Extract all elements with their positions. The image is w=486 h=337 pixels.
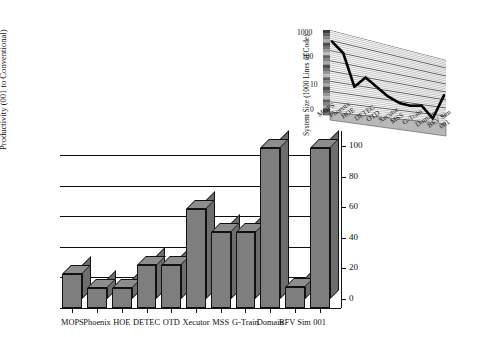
inset-wall-band (323, 39, 330, 42)
bar-front-face (137, 265, 157, 308)
inset-wall-band (323, 96, 330, 99)
bar-mops (62, 140, 82, 308)
inset-wall-band (323, 68, 330, 71)
bar-front-face (310, 148, 330, 308)
bar-front-face (186, 209, 206, 308)
x-tick-mark (221, 308, 222, 313)
inset-wall-band (323, 84, 330, 87)
bar-mss (211, 140, 231, 308)
inset-wall-band (323, 33, 330, 36)
inset-wall-band (323, 77, 330, 80)
inset-wall-band (323, 74, 330, 77)
bar-front-face (236, 232, 256, 308)
bar-detec (137, 140, 157, 308)
bar-bfv-sim (285, 140, 305, 308)
bar-domain (260, 140, 280, 308)
x-tick-mark (320, 308, 321, 313)
bar-front-face (62, 274, 82, 308)
bar-hoe (112, 140, 132, 308)
inset-y-tick-label: 1000 (297, 28, 312, 37)
bar-001 (310, 140, 330, 308)
bar-front-face (161, 265, 181, 308)
inset-y-tick-label: 100 (302, 52, 313, 61)
bar-xecutor (186, 140, 206, 308)
bar-front-face (87, 288, 107, 308)
y-tick-label: 40 (349, 233, 358, 242)
x-tick-mark (122, 308, 123, 313)
inset-gridline (330, 67, 446, 89)
inset-wall-band (323, 65, 330, 68)
inset-line-chart: System Size (1000 Lines of Code) 1000100… (296, 8, 486, 158)
x-tick-label: 001 (294, 318, 346, 327)
bar-front-face (211, 232, 231, 308)
inset-wall-band (323, 58, 330, 61)
inset-wall-band (323, 62, 330, 65)
x-tick-mark (97, 308, 98, 313)
x-tick-mark (72, 308, 73, 313)
x-tick-mark (196, 308, 197, 313)
x-tick-mark (295, 308, 296, 313)
x-tick-mark (270, 308, 271, 313)
inset-gridline (330, 32, 446, 62)
main-y-axis-title: Productivity (001 to Conventional) (0, 29, 8, 150)
inset-wall-band (323, 30, 330, 33)
bar-g-train (236, 140, 256, 308)
x-axis-line (60, 308, 341, 309)
main-plot-area: 020406080100MOPSPhoenixHOEDETECOTDXecuto… (60, 140, 332, 308)
inset-gridline (330, 34, 446, 63)
y-tick-label: 80 (349, 172, 358, 181)
bar-front-face (260, 148, 280, 308)
inset-wall-band (323, 43, 330, 46)
inset-gridline (330, 30, 446, 60)
inset-svg-canvas (296, 8, 486, 158)
x-tick-mark (245, 308, 246, 313)
y-tick-label: 20 (349, 263, 358, 272)
inset-y-tick-label: 10 (310, 80, 318, 89)
x-tick-mark (147, 308, 148, 313)
inset-wall-band (323, 90, 330, 93)
inset-gridline (330, 83, 446, 101)
bar-front-face (112, 288, 132, 308)
bar-phoenix (87, 140, 107, 308)
inset-wall-band (323, 71, 330, 74)
inset-wall-band (323, 93, 330, 96)
bar-front-face (285, 287, 305, 308)
inset-wall-band (323, 52, 330, 55)
bar-otd (161, 140, 181, 308)
y-tick-label: 60 (349, 202, 358, 211)
inset-wall-band (323, 55, 330, 58)
inset-wall-band (323, 49, 330, 52)
x-tick-mark (171, 308, 172, 313)
inset-wall-band (323, 80, 330, 83)
inset-wall-band (323, 87, 330, 90)
y-tick-label: 0 (349, 294, 354, 303)
inset-wall-band (323, 46, 330, 49)
inset-wall-band (323, 36, 330, 39)
inset-y-tick-label: 0 (310, 105, 314, 114)
